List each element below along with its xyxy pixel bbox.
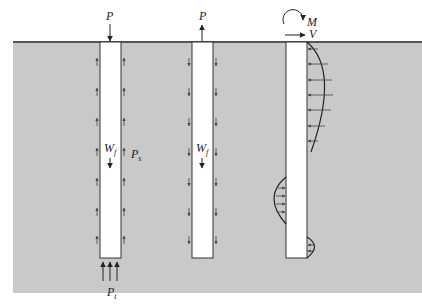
label-P: P bbox=[198, 9, 207, 23]
label-P: P bbox=[105, 9, 114, 23]
soil-region bbox=[13, 42, 422, 293]
pile-uplift: P Wf bbox=[189, 9, 216, 258]
pile-diagram: P Wf Ps Pt bbox=[0, 0, 422, 307]
pile-shaft bbox=[286, 42, 307, 258]
label-V: V bbox=[309, 27, 318, 41]
moment-arrow bbox=[283, 10, 303, 24]
